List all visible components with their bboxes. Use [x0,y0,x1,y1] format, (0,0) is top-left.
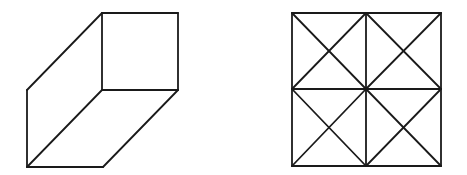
edge-line [27,13,102,90]
edge-line [27,90,102,167]
subdivided-square-figure [292,13,441,166]
diagram-canvas [0,0,467,175]
diagram-svg [0,0,467,175]
edge-line [103,90,178,167]
oblique-prism-figure [27,13,178,167]
